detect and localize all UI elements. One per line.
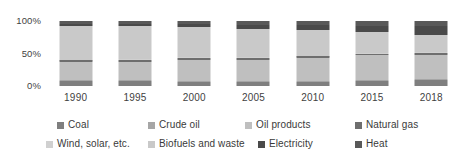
- bar-segment-oil-products: [59, 62, 92, 80]
- x-axis-label-2015: 2015: [342, 92, 401, 104]
- bar-slot-2018: [402, 21, 461, 86]
- legend-item-oil-products[interactable]: Oil products: [245, 116, 311, 134]
- legend-swatch-coal: [57, 122, 64, 129]
- legend-row-2: Wind, solar, etc.Biofuels and wasteElect…: [0, 135, 461, 153]
- bar-segment-biofuels-and-waste: [415, 35, 448, 52]
- bar-segment-oil-products: [118, 62, 151, 81]
- bar-segment-biofuels-and-waste: [59, 26, 92, 60]
- legend-item-natural-gas[interactable]: Natural gas: [355, 116, 418, 134]
- bar-segment-electricity: [415, 26, 448, 35]
- legend-label-wind-solar-etc: Wind, solar, etc.: [57, 138, 130, 150]
- legend-label-biofuels-and-waste: Biofuels and waste: [159, 138, 245, 150]
- bars-container: [46, 21, 461, 86]
- bar-segment-oil-products: [296, 58, 329, 81]
- bar-segment-coal: [178, 82, 211, 86]
- bar-segment-biofuels-and-waste: [356, 32, 389, 53]
- bar-segment-oil-products: [237, 60, 270, 82]
- y-axis: 100% 50% 0%: [0, 0, 46, 92]
- bar-segment-oil-products: [356, 55, 389, 80]
- x-axis-label-1990: 1990: [46, 92, 105, 104]
- y-tick-0: 0%: [27, 81, 41, 91]
- legend-label-natural-gas: Natural gas: [366, 119, 418, 131]
- legend-swatch-heat: [355, 141, 362, 148]
- legend-item-coal[interactable]: Coal: [57, 116, 89, 134]
- stacked-bar-2010[interactable]: [296, 21, 329, 86]
- bar-slot-2005: [224, 21, 283, 86]
- x-axis-label-2018: 2018: [402, 92, 461, 104]
- chart-legend: CoalCrude oilOil productsNatural gas Win…: [0, 112, 461, 162]
- legend-item-crude-oil[interactable]: Crude oil: [148, 116, 200, 134]
- legend-label-coal: Coal: [68, 119, 89, 131]
- bar-slot-1995: [105, 21, 164, 86]
- bar-segment-coal: [59, 81, 92, 86]
- legend-swatch-oil-products: [245, 122, 252, 129]
- legend-swatch-electricity: [258, 141, 265, 148]
- legend-swatch-natural-gas: [355, 122, 362, 129]
- legend-swatch-crude-oil: [148, 122, 155, 129]
- legend-label-crude-oil: Crude oil: [159, 119, 200, 131]
- bar-segment-coal: [237, 82, 270, 86]
- bar-slot-2015: [342, 21, 401, 86]
- bar-segment-coal: [356, 81, 389, 86]
- legend-item-wind-solar-etc[interactable]: Wind, solar, etc.: [46, 135, 130, 153]
- legend-label-oil-products: Oil products: [256, 119, 311, 131]
- x-axis: 1990199520002005201020152018: [46, 92, 461, 110]
- legend-label-electricity: Electricity: [269, 138, 313, 150]
- stacked-bar-chart: 100% 50% 0% 1990199520002005201020152018…: [0, 0, 461, 162]
- bar-segment-biofuels-and-waste: [237, 29, 270, 58]
- legend-swatch-biofuels-and-waste: [148, 141, 155, 148]
- bar-slot-2000: [165, 21, 224, 86]
- bar-segment-oil-products: [178, 60, 211, 81]
- x-axis-label-2010: 2010: [283, 92, 342, 104]
- legend-row-1: CoalCrude oilOil productsNatural gas: [0, 116, 461, 134]
- y-tick-50: 50%: [22, 49, 41, 59]
- x-axis-label-2005: 2005: [224, 92, 283, 104]
- bar-segment-coal: [415, 80, 448, 86]
- legend-item-biofuels-and-waste[interactable]: Biofuels and waste: [148, 135, 245, 153]
- bar-segment-coal: [296, 82, 329, 86]
- bar-segment-biofuels-and-waste: [178, 27, 211, 58]
- bar-segment-biofuels-and-waste: [118, 26, 151, 59]
- legend-item-heat[interactable]: Heat: [355, 135, 388, 153]
- bar-slot-2010: [283, 21, 342, 86]
- stacked-bar-2000[interactable]: [178, 21, 211, 86]
- legend-label-heat: Heat: [366, 138, 388, 150]
- stacked-bar-2015[interactable]: [356, 21, 389, 86]
- bar-segment-biofuels-and-waste: [296, 30, 329, 55]
- x-axis-label-2000: 2000: [165, 92, 224, 104]
- legend-item-electricity[interactable]: Electricity: [258, 135, 313, 153]
- legend-swatch-wind-solar-etc: [46, 141, 53, 148]
- bar-segment-oil-products: [415, 55, 448, 80]
- stacked-bar-1990[interactable]: [59, 21, 92, 86]
- y-tick-100: 100%: [16, 16, 41, 26]
- x-axis-label-1995: 1995: [105, 92, 164, 104]
- stacked-bar-2005[interactable]: [237, 21, 270, 86]
- stacked-bar-2018[interactable]: [415, 21, 448, 86]
- stacked-bar-1995[interactable]: [118, 21, 151, 86]
- bar-segment-coal: [118, 81, 151, 86]
- bar-slot-1990: [46, 21, 105, 86]
